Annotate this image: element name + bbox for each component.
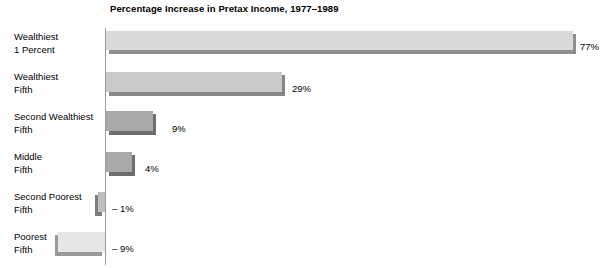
bar-face <box>58 232 105 252</box>
value-label: – 9% <box>112 243 134 254</box>
bar-face <box>106 72 282 92</box>
bar-poorest-fifth[interactable] <box>58 232 105 252</box>
bar-second-wealthiest-fifth[interactable] <box>106 111 153 131</box>
category-label: Wealthiest 1 Percent <box>14 31 58 56</box>
category-label: Second Wealthiest Fifth <box>14 111 93 136</box>
bar-shadow-right <box>282 75 285 95</box>
bar-wealthiest-fifth[interactable] <box>106 72 282 92</box>
category-label-line2: Fifth <box>14 164 42 177</box>
bar-face <box>106 152 132 172</box>
category-label: Middle Fifth <box>14 151 42 176</box>
bar-chart: Percentage Increase in Pretax Income, 19… <box>0 0 615 268</box>
category-label-line2: Fifth <box>14 204 82 217</box>
value-label: 77% <box>580 41 599 52</box>
category-label: Wealthiest Fifth <box>14 71 58 96</box>
value-label: 4% <box>145 163 159 174</box>
category-label-line1: Second Poorest <box>14 191 82 202</box>
category-label: Poorest Fifth <box>14 231 47 256</box>
bar-wealthiest-1-percent[interactable] <box>106 31 573 50</box>
bar-shadow-right <box>153 114 156 134</box>
bar-shadow-right <box>573 34 576 53</box>
category-label-line1: Wealthiest <box>14 71 58 82</box>
bar-face <box>106 111 153 131</box>
bar-face <box>98 192 105 212</box>
bar-row: Second Wealthiest Fifth 9% <box>0 108 615 152</box>
bar-shadow-right <box>132 155 135 175</box>
bar-shadow-bottom <box>109 50 576 54</box>
category-label-line2: Fifth <box>14 84 58 97</box>
bar-second-poorest-fifth[interactable] <box>98 192 105 212</box>
value-label: 29% <box>292 83 311 94</box>
bar-row: Middle Fifth 4% <box>0 148 615 192</box>
bar-shadow-bottom <box>55 252 102 256</box>
bar-shadow-bottom <box>109 131 156 135</box>
category-label-line2: Fifth <box>14 124 93 137</box>
category-label-line1: Second Wealthiest <box>14 111 93 122</box>
bar-row: Second Poorest Fifth – 1% <box>0 188 615 232</box>
category-label-line1: Poorest <box>14 231 47 242</box>
value-label: – 1% <box>112 203 134 214</box>
bar-face <box>106 31 573 50</box>
bar-shadow-right <box>95 195 98 215</box>
chart-title: Percentage Increase in Pretax Income, 19… <box>110 3 339 14</box>
bar-shadow-right <box>55 235 58 255</box>
category-label-line1: Middle <box>14 151 42 162</box>
bar-row: Poorest Fifth – 9% <box>0 228 615 268</box>
value-label: 9% <box>172 123 186 134</box>
category-label: Second Poorest Fifth <box>14 191 82 216</box>
category-label-line2: Fifth <box>14 244 47 257</box>
bar-middle-fifth[interactable] <box>106 152 132 172</box>
category-label-line2: 1 Percent <box>14 44 58 57</box>
bar-row: Wealthiest 1 Percent 77% <box>0 28 615 72</box>
bar-shadow-bottom <box>109 92 285 96</box>
bar-row: Wealthiest Fifth 29% <box>0 68 615 112</box>
category-label-line1: Wealthiest <box>14 31 58 42</box>
